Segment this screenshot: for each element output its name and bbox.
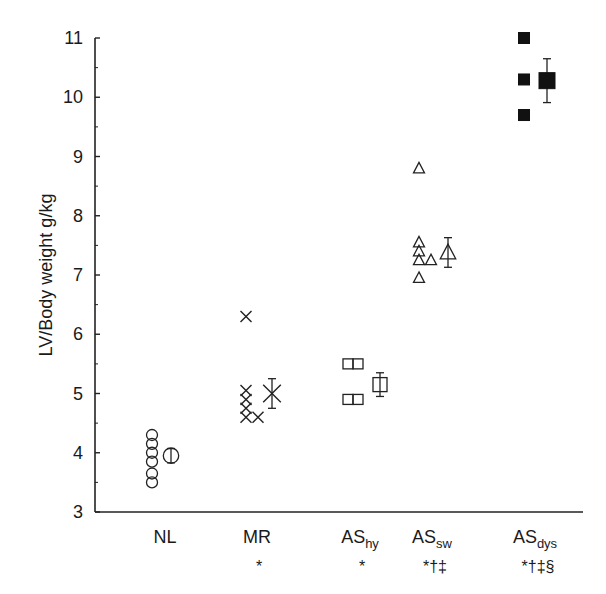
significance-marker: *†‡§ xyxy=(522,558,555,575)
y-tick-label: 7 xyxy=(73,265,83,285)
category-label: ASdys xyxy=(513,527,558,551)
mean-error-bar xyxy=(163,448,178,463)
significance-marker: *†‡ xyxy=(423,558,447,575)
y-tick-label: 6 xyxy=(73,324,83,344)
data-point xyxy=(353,394,363,404)
y-tick-label: 4 xyxy=(73,443,83,463)
y-axis-label: LV/Body weight g/kg xyxy=(36,194,56,357)
data-point xyxy=(414,162,425,173)
mean-error-bar xyxy=(539,59,555,103)
data-point xyxy=(353,359,363,369)
category-label: AShy xyxy=(341,527,379,551)
significance-marker: * xyxy=(256,558,262,575)
y-tick-label: 3 xyxy=(73,502,83,522)
y-tick-label: 8 xyxy=(73,206,83,226)
data-point xyxy=(241,394,252,405)
y-tick-label: 9 xyxy=(73,147,83,167)
mean-marker xyxy=(539,73,555,89)
y-tick-label: 11 xyxy=(64,28,83,48)
y-tick-label: 5 xyxy=(73,384,83,404)
scatter-chart: 34567891011 LV/Body weight g/kg NLMR*ASh… xyxy=(0,0,606,594)
data-point xyxy=(519,110,530,121)
significance-marker: * xyxy=(359,558,365,575)
category-label: MR xyxy=(243,527,271,547)
data-point xyxy=(343,359,353,369)
data-point xyxy=(343,394,353,404)
category-label: ASsw xyxy=(412,527,453,551)
data-point xyxy=(426,254,437,265)
y-tick-label: 10 xyxy=(63,87,83,107)
category-label: NL xyxy=(153,527,176,547)
data-point xyxy=(414,272,425,283)
data-point xyxy=(241,403,252,414)
data-points xyxy=(147,33,556,488)
mean-error-bar xyxy=(263,379,281,409)
data-point xyxy=(519,33,530,44)
data-point xyxy=(241,311,252,322)
mean-error-bar xyxy=(373,373,387,397)
data-point xyxy=(253,412,264,423)
data-point xyxy=(519,74,530,85)
axes xyxy=(95,38,583,512)
mean-error-bar xyxy=(440,238,455,268)
data-point xyxy=(241,385,252,396)
x-axis-categories: NLMR*AShy*ASsw*†‡ASdys*†‡§ xyxy=(153,527,557,575)
data-point xyxy=(241,412,252,423)
